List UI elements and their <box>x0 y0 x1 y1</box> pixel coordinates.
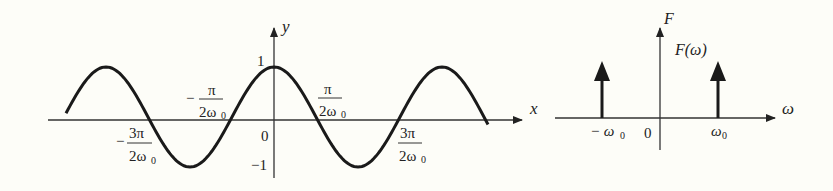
label-neg-omega0: − ω 0 <box>590 123 625 141</box>
right-origin-label: 0 <box>644 125 652 141</box>
svg-text:3π: 3π <box>400 125 416 141</box>
svg-text:0: 0 <box>722 130 727 141</box>
svg-text:0: 0 <box>341 109 346 120</box>
y-tick-1: 1 <box>257 53 265 69</box>
svg-text:ω: ω <box>711 123 722 139</box>
impulse-neg-omega0 <box>594 61 610 118</box>
svg-text:2ω: 2ω <box>319 103 337 119</box>
svg-text:π: π <box>324 81 332 97</box>
impulse-pos-omega0 <box>710 61 726 118</box>
F-axis-label: F <box>663 10 674 27</box>
svg-text:2ω: 2ω <box>399 148 417 164</box>
label-pos-omega0: ω 0 <box>711 123 727 141</box>
svg-text:0: 0 <box>620 130 625 141</box>
svg-text:0: 0 <box>421 154 426 165</box>
svg-text:2ω: 2ω <box>199 104 217 120</box>
svg-text:−: − <box>116 133 124 149</box>
F-omega-label: F(ω) <box>674 41 707 59</box>
omega-axis-label: ω <box>782 99 794 118</box>
figure: y x 1 −1 0 − 3π 2ω 0 − π 2ω 0 π 2ω 0 <box>0 0 833 191</box>
label-pi-over-2w0: π 2ω 0 <box>318 81 346 120</box>
svg-text:3π: 3π <box>129 125 145 141</box>
svg-text:0: 0 <box>221 110 226 121</box>
y-tick-neg1: −1 <box>251 157 267 173</box>
label-neg-3pi-over-2w0: − 3π 2ω 0 <box>116 125 156 166</box>
y-axis-label: y <box>280 17 290 36</box>
label-3pi-over-2w0: 3π 2ω 0 <box>398 125 426 165</box>
left-plot: y x 1 −1 0 − 3π 2ω 0 − π 2ω 0 π 2ω 0 <box>48 17 538 178</box>
svg-text:0: 0 <box>151 155 156 166</box>
svg-text:− ω: − ω <box>590 123 614 139</box>
label-neg-pi-over-2w0: − π 2ω 0 <box>186 82 226 121</box>
svg-text:π: π <box>208 82 216 98</box>
origin-label: 0 <box>261 128 269 144</box>
svg-text:−: − <box>186 90 194 106</box>
svg-text:2ω: 2ω <box>129 148 147 164</box>
right-plot: F F(ω) ω 0 − ω 0 ω 0 <box>555 10 794 150</box>
x-axis-label: x <box>529 99 538 118</box>
